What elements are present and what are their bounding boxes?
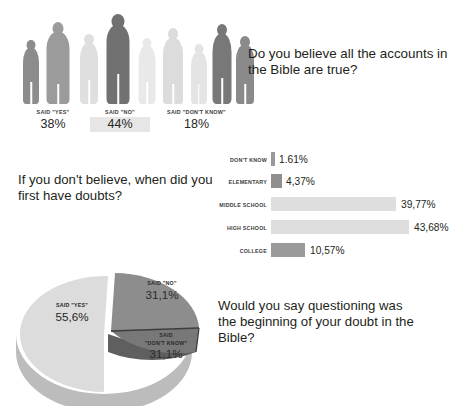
- pictograph-caption: SAID "NO": [90, 108, 150, 116]
- bar-value-label: 43,68%: [414, 222, 449, 233]
- question-questioning-beginning-doubt: Would you say questioning was the beginn…: [218, 298, 423, 347]
- bar-fill: [271, 174, 282, 188]
- pictograph-caption: SAID "DON'T KNOW": [150, 108, 243, 116]
- bar-chart-doubts: DON'T KNOW 1.61% ELEMENTARY 4,37% MIDDLE…: [205, 152, 461, 262]
- pictograph-labels: SAID "YES" 38% SAID "NO" 44% SAID "DON'T…: [18, 108, 243, 144]
- bar-value-label: 10,57%: [310, 245, 345, 256]
- bar-value-label: 1.61%: [279, 154, 308, 165]
- pictograph-percent: 44%: [90, 117, 150, 132]
- pictograph-label-no: SAID "NO" 44%: [90, 108, 150, 132]
- question-first-doubts: If you don't believe, when did you first…: [18, 172, 213, 204]
- bar-category-label: COLLEGE: [205, 248, 267, 254]
- pie-svg: [8, 256, 223, 406]
- bar-category-label: ELEMENTARY: [205, 179, 267, 185]
- pie-caption: SAID: [130, 332, 202, 340]
- bar-row: ELEMENTARY 4,37%: [205, 174, 461, 189]
- pie-caption: SAID "NO": [130, 280, 194, 288]
- bar-row: DON'T KNOW 1.61%: [205, 152, 461, 167]
- bar-fill: [271, 152, 275, 166]
- pie-label-no: SAID "NO" 31,1%: [130, 280, 194, 301]
- pie-percent: 55,6%: [36, 310, 108, 324]
- pictograph-percent: 18%: [150, 117, 243, 132]
- pictograph-label-yes: SAID "YES" 38%: [18, 108, 88, 132]
- bar-fill: [271, 197, 396, 211]
- people-silhouettes-group: [18, 12, 238, 104]
- bar-row: HIGH SCHOOL 43,68%: [205, 220, 461, 235]
- pie-percent: 31,1%: [130, 288, 194, 302]
- bar-fill: [271, 220, 409, 234]
- person-silhouette: [136, 38, 158, 104]
- pie-caption-second-line: "DON'T KNOW": [130, 340, 202, 348]
- person-silhouette: [77, 34, 101, 104]
- bar-row: COLLEGE 10,57%: [205, 243, 461, 258]
- pie-label-dont-know: SAID "DON'T KNOW" 31,1%: [130, 332, 202, 361]
- pictograph-percent: 38%: [18, 117, 88, 132]
- bar-category-label: HIGH SCHOOL: [205, 225, 267, 231]
- pie-caption: SAID "YES": [36, 302, 108, 310]
- bar-value-label: 39,77%: [401, 199, 436, 210]
- bar-value-label: 4,37%: [286, 176, 315, 187]
- person-silhouette: [43, 22, 73, 104]
- pie-label-yes: SAID "YES" 55,6%: [36, 302, 108, 323]
- bar-fill: [271, 243, 305, 257]
- person-silhouette: [20, 40, 42, 104]
- pie-percent: 31,1%: [130, 347, 202, 361]
- pictograph-label-dont-know: SAID "DON'T KNOW" 18%: [150, 108, 243, 132]
- bar-row: MIDDLE SCHOOL 39,77%: [205, 197, 461, 212]
- question-bible-accounts-true: Do you believe all the accounts in the B…: [248, 46, 448, 79]
- person-silhouette: [103, 14, 133, 104]
- person-silhouette: [210, 24, 234, 104]
- pie-chart-questioning: SAID "YES" 55,6% SAID "NO" 31,1% SAID "D…: [8, 256, 223, 406]
- pie-graphic: [8, 256, 223, 406]
- bar-category-label: MIDDLE SCHOOL: [205, 202, 267, 208]
- person-silhouette: [188, 44, 209, 104]
- pictograph-caption: SAID "YES": [18, 108, 88, 116]
- person-silhouette: [160, 28, 186, 104]
- bar-category-label: DON'T KNOW: [205, 157, 267, 163]
